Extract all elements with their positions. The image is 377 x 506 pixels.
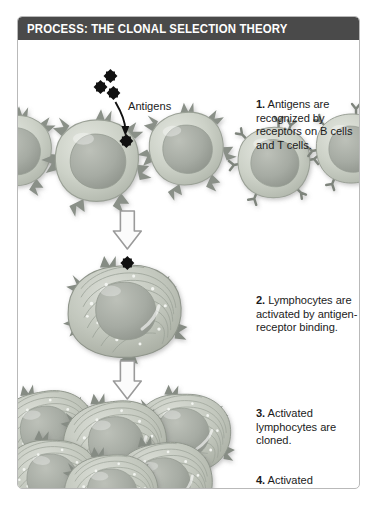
step-1-number: 1. (256, 98, 265, 110)
antigen-diamond (103, 69, 117, 83)
resting-lymphocyte-cell-bound (41, 109, 151, 216)
figure-panel: PROCESS: THE CLONAL SELECTION THEORY (17, 16, 360, 489)
step-4-caption: 4. Activated lymphocytes endure. (256, 474, 360, 489)
antigen-diamond (106, 86, 120, 100)
step-3-text: Activated lymphocytes are cloned. (256, 407, 336, 446)
step-1-caption: 1. Antigens are recognized by receptors … (256, 98, 360, 152)
step-4-text: Activated lymphocytes endure. (256, 474, 357, 489)
figure-title: PROCESS: THE CLONAL SELECTION THEORY (27, 22, 287, 36)
step-2-caption: 2. Lymphocytes are activated by antigen-… (256, 294, 360, 335)
resting-lymphocyte-cell (131, 97, 241, 205)
step-4-number: 4. (256, 474, 265, 486)
antigens-label: Antigens (128, 100, 171, 112)
antigen-diamond (94, 80, 108, 94)
step-1-text: Antigens are recognized by receptors on … (256, 98, 352, 151)
activated-lymphocyte-cell (63, 256, 187, 370)
step-2-number: 2. (256, 294, 265, 306)
step-3-number: 3. (256, 407, 265, 419)
title-bar: PROCESS: THE CLONAL SELECTION THEORY (18, 17, 359, 40)
step-3-caption: 3. Activated lymphocytes are cloned. (256, 407, 360, 448)
flow-arrow-1 (113, 211, 141, 249)
step-2-text: Lymphocytes are activated by antigen-rec… (256, 294, 357, 333)
flow-arrow-2 (113, 361, 141, 399)
activated-lymphocyte-row (63, 256, 187, 370)
diagram-canvas: Antigens 1. Antigens are recognized by r… (18, 40, 359, 489)
